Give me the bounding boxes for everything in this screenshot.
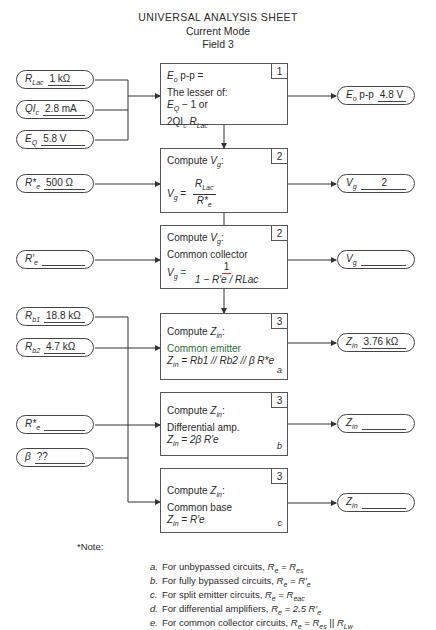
notes-heading: *Note: xyxy=(77,541,103,552)
step-box-vg-common-collector: 2 Compute Vg: Common collector Vg = 1 1 … xyxy=(160,225,288,289)
input-value[interactable] xyxy=(44,418,85,431)
output-zin-b[interactable]: Zin xyxy=(337,414,415,433)
output-value[interactable] xyxy=(362,417,406,430)
note-item: a.For unbypassed circuits, Re = Res xyxy=(150,561,303,574)
step-number: 2 xyxy=(271,225,288,241)
step-number: 3 xyxy=(271,313,288,329)
output-value[interactable]: 4.8 V xyxy=(378,89,406,102)
output-eo-pp[interactable]: Eo p-p 4.8 V xyxy=(337,86,415,105)
input-value[interactable]: 2.8 mA xyxy=(43,103,85,116)
input-value[interactable]: 5.8 V xyxy=(41,133,85,146)
step-box-eo: 1 Eo p-p = The lesser of: EQ − 1 or 2QIc… xyxy=(160,63,288,125)
step-number: 2 xyxy=(271,148,288,164)
step-box-vg: 2 Compute Vg: Vg = RLac R*e xyxy=(160,148,288,213)
input-value[interactable]: 1 kΩ xyxy=(48,73,85,86)
output-vg-2[interactable]: Vg xyxy=(337,250,415,269)
step-box-zin-differential: 3 Compute Zin: Differential amp. Zin = 2… xyxy=(160,392,288,456)
input-e-q[interactable]: EQ 5.8 V xyxy=(16,130,94,149)
output-zin-c[interactable]: Zin xyxy=(337,493,415,512)
step-box-zin-common-emitter: 3 Compute Zin: Common emitter Zin = Rb1 … xyxy=(160,313,288,380)
output-vg-1[interactable]: Vg 2 xyxy=(337,174,415,193)
note-item: b.For fully bypassed circuits, Re = R′e xyxy=(150,575,311,588)
output-value[interactable]: 3.76 kΩ xyxy=(362,336,406,349)
input-value[interactable]: 18.8 kΩ xyxy=(44,310,85,323)
input-r-b1[interactable]: Rb1 18.8 kΩ xyxy=(16,307,94,326)
note-item: d.For differential amplifiers, Re = 2.5 … xyxy=(150,603,321,616)
note-item: e.For common collector circuits, Re = Re… xyxy=(150,617,353,630)
output-value[interactable]: 2 xyxy=(361,177,406,190)
input-value[interactable]: ?? xyxy=(35,451,85,464)
input-value[interactable]: 500 Ω xyxy=(44,177,85,190)
input-r-lac[interactable]: RLac 1 kΩ xyxy=(16,70,94,89)
step-number: 3 xyxy=(271,392,288,408)
step-number: 3 xyxy=(271,468,288,484)
input-re-prime[interactable]: R′e xyxy=(16,250,94,269)
input-re-star[interactable]: R*e 500 Ω xyxy=(16,174,94,193)
output-value[interactable] xyxy=(362,496,406,509)
input-re-star-2[interactable]: R*e xyxy=(16,415,94,434)
input-value[interactable]: 4.7 kΩ xyxy=(44,341,85,354)
step-number: 1 xyxy=(271,63,288,79)
note-item: c.For split emitter circuits, Re = Reac xyxy=(150,589,305,602)
output-zin-a[interactable]: Zin 3.76 kΩ xyxy=(337,333,415,352)
input-value[interactable] xyxy=(42,253,85,266)
output-value[interactable] xyxy=(361,253,406,266)
step-box-zin-common-base: 3 Compute Zin: Common base Zin = R′e c xyxy=(160,468,288,533)
formula-fraction: 1 1 − R′e / RLac xyxy=(193,261,260,286)
formula-fraction: RLac R*e xyxy=(193,178,216,211)
input-r-b2[interactable]: Rb2 4.7 kΩ xyxy=(16,338,94,357)
input-qi-c[interactable]: QIc 2.8 mA xyxy=(16,100,94,119)
input-beta[interactable]: β ?? xyxy=(16,448,94,467)
